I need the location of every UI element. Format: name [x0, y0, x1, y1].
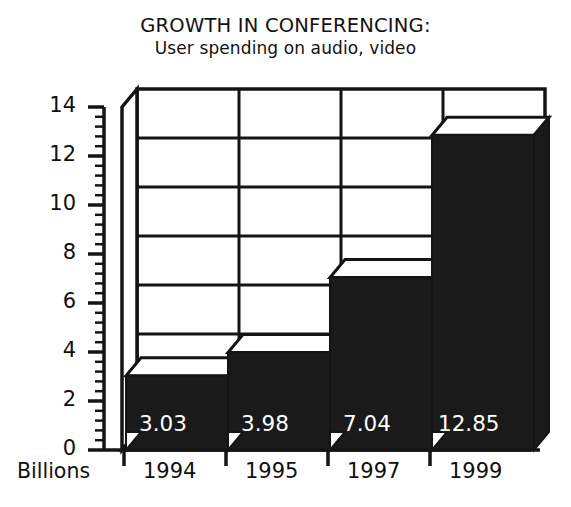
ytick-label-8: 8 [16, 240, 76, 264]
xtick-label-1997: 1997 [347, 459, 400, 483]
bar-value-1995: 3.98 [241, 411, 289, 436]
bar-1999 [432, 117, 549, 450]
y-axis-caption: Billions [17, 459, 90, 483]
bar-value-1999: 12.85 [438, 411, 500, 436]
ytick-label-10: 10 [16, 191, 76, 215]
ytick-label-4: 4 [16, 338, 76, 362]
y-axis-major-ticks [88, 107, 104, 450]
y-axis [88, 107, 104, 450]
ytick-label-6: 6 [16, 289, 76, 313]
xtick-label-1999: 1999 [449, 459, 502, 483]
chart-root: GROWTH IN CONFERENCING: User spending on… [0, 0, 571, 507]
xtick-label-1995: 1995 [245, 459, 298, 483]
ytick-label-12: 12 [16, 142, 76, 166]
bar-1994 [126, 358, 243, 450]
bar-value-1997: 7.04 [343, 411, 391, 436]
ytick-label-14: 14 [16, 93, 76, 117]
xtick-label-1994: 1994 [143, 459, 196, 483]
ytick-label-2: 2 [16, 387, 76, 411]
ytick-label-0: 0 [16, 436, 76, 460]
bar-value-1994: 3.03 [139, 411, 187, 436]
